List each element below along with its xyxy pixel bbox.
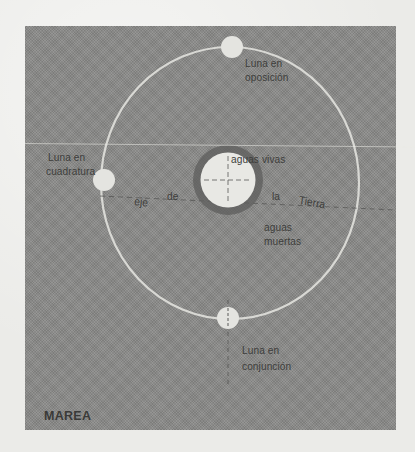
moon-quadrature [93,169,115,191]
label-moon-opposition-line2: oposición [245,70,289,84]
label-neap-tides-line1: aguas [264,220,292,234]
label-moon-conjunction-line2: conjunción [242,359,291,373]
label-moon-quadrature-line1: Luna en [48,150,85,164]
label-axis-de: de [167,189,178,203]
label-moon-quadrature-line2: cuadratura [46,164,95,178]
label-neap-tides-line2: muertas [264,234,301,248]
label-axis-la: la [272,189,280,203]
figure-title: MAREA [44,409,91,423]
label-moon-conjunction-line1: Luna en [242,343,279,357]
moon-opposition [221,36,243,58]
tide-diagram [0,0,415,452]
label-spring-tides: aguas vivas [231,152,285,166]
label-axis-eje: eje [134,194,149,210]
label-moon-opposition-line1: Luna en [245,56,282,70]
